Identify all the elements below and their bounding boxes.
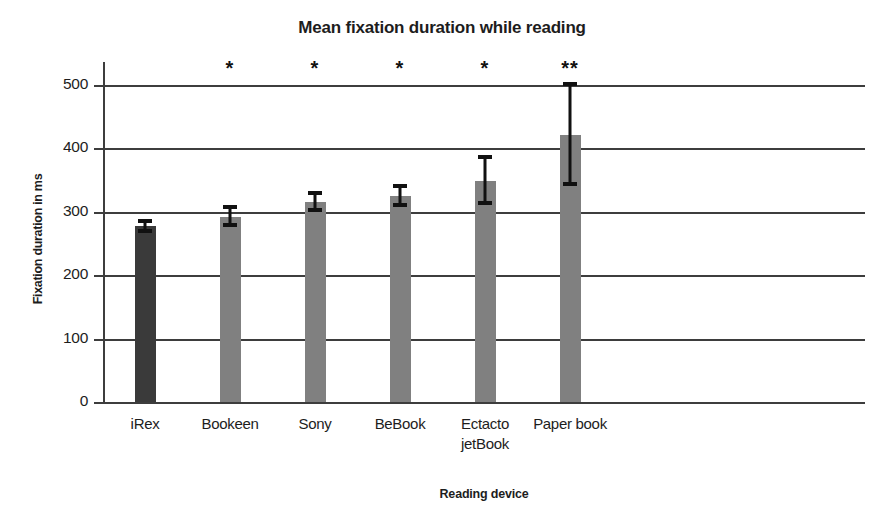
chart-title: Mean fixation duration while reading [0, 18, 884, 38]
error-bar-cap-top [478, 155, 492, 159]
error-bar-line [569, 82, 572, 185]
y-axis-label-0: 0 [28, 392, 88, 410]
y-axis-label-400: 400 [28, 138, 88, 156]
y-axis-label-500: 500 [28, 75, 88, 93]
error-bar-cap-top [563, 82, 577, 86]
error-bar-cap-bottom [393, 203, 407, 207]
error-bar-bebook [393, 184, 407, 207]
error-bar-cap-top [393, 184, 407, 188]
significance-mark-sony: * [285, 58, 345, 78]
error-bar-cap-top [223, 205, 237, 209]
gridline-500 [103, 85, 865, 87]
error-bar-cap-bottom [563, 182, 577, 186]
significance-mark-paper-book: ** [540, 58, 600, 78]
error-bar-cap-bottom [478, 201, 492, 205]
bar-ectacto-jetbook [475, 181, 496, 402]
error-bar-cap-top [308, 191, 322, 195]
error-bar-cap-bottom [223, 223, 237, 227]
bar-bookeen [220, 217, 241, 402]
y-axis-title: Fixation duration in ms [31, 129, 45, 349]
bar-bebook [390, 196, 411, 402]
y-axis-label-300: 300 [28, 202, 88, 220]
error-bar-line [484, 155, 487, 205]
x-axis-label-line: Paper book [515, 414, 625, 434]
plot-area [103, 85, 865, 402]
error-bar-paper-book [563, 82, 577, 185]
x-axis-title: Reading device [103, 487, 865, 501]
significance-mark-bookeen: * [200, 58, 260, 78]
error-bar-cap-bottom [138, 229, 152, 233]
y-axis-label-100: 100 [28, 329, 88, 347]
bar-chart: Mean fixation duration while reading Fix… [0, 0, 884, 523]
significance-mark-bebook: * [370, 58, 430, 78]
error-bar-sony [308, 191, 322, 212]
error-bar-cap-bottom [308, 208, 322, 212]
y-axis-label-200: 200 [28, 265, 88, 283]
error-bar-irex [138, 219, 152, 232]
bar-irex [135, 226, 156, 402]
x-axis-label-line: jetBook [430, 434, 540, 454]
gridline-400 [103, 148, 865, 150]
gridline-0 [103, 402, 865, 404]
significance-mark-ectacto-jetbook: * [455, 58, 515, 78]
bar-sony [305, 202, 326, 402]
x-axis-label-paper-book: Paper book [515, 414, 625, 434]
error-bar-bookeen [223, 205, 237, 227]
error-bar-ectacto-jetbook [478, 155, 492, 205]
error-bar-cap-top [138, 219, 152, 223]
